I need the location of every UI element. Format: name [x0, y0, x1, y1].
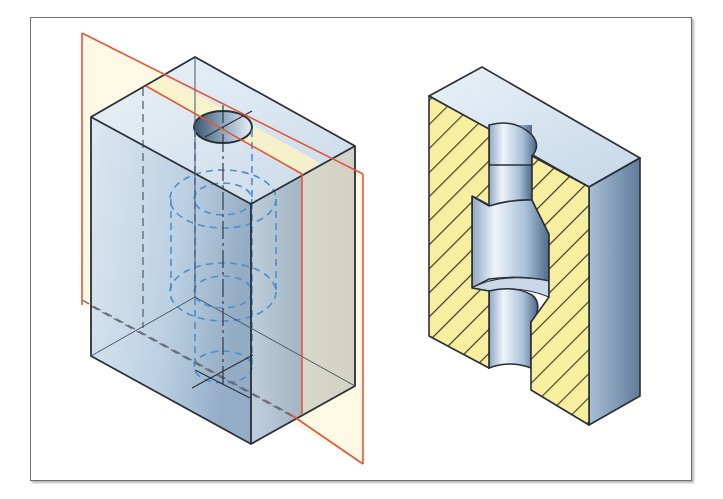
diagram-canvas [0, 0, 723, 499]
left-view [82, 33, 363, 464]
section-block-side-face [589, 158, 640, 425]
cutting-plane-side-region [302, 146, 355, 415]
right-view [429, 67, 640, 425]
